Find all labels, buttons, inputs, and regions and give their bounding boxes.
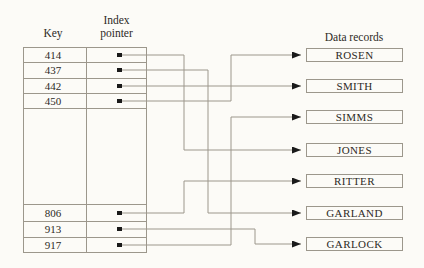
- index-pointer-column-header: Index pointer: [86, 14, 147, 40]
- pointer-marker-icon: [117, 68, 122, 72]
- wire-450-to-ROSEN: [122, 55, 301, 101]
- pointer-marker-icon: [117, 84, 122, 88]
- row-divider: [23, 204, 147, 205]
- pointer-marker-icon: [117, 99, 122, 103]
- key-cell: 450: [23, 94, 83, 108]
- index-file-diagram: Key Index pointer Data records 414 437 4…: [0, 0, 424, 268]
- row-divider: [23, 108, 147, 109]
- pointer-marker-icon: [117, 243, 122, 247]
- record-box: SMITH: [306, 79, 403, 93]
- wire-414-to-JONES: [122, 55, 301, 150]
- wire-437-to-GARLAND: [122, 70, 301, 213]
- key-cell: 913: [23, 222, 83, 236]
- key-cell: 414: [23, 48, 83, 62]
- pointer-marker-icon: [117, 53, 122, 57]
- record-box: GARLAND: [306, 206, 403, 220]
- wire-913-to-GARLOCK: [122, 229, 301, 244]
- key-cell: 917: [23, 238, 83, 252]
- record-box: GARLOCK: [306, 237, 403, 251]
- wire-806-to-RITTER: [122, 181, 301, 213]
- index-pointer-header-line2: pointer: [86, 27, 147, 40]
- record-box: SIMMS: [306, 110, 403, 124]
- data-records-title: Data records: [300, 31, 408, 44]
- record-box: ROSEN: [306, 48, 403, 62]
- record-box: RITTER: [306, 174, 403, 188]
- key-column-header: Key: [23, 27, 83, 40]
- record-box: JONES: [306, 143, 403, 157]
- pointer-marker-icon: [117, 211, 122, 215]
- key-cell: 442: [23, 79, 83, 93]
- wire-917-to-SIMMS: [122, 117, 301, 245]
- key-cell: 437: [23, 63, 83, 77]
- index-pointer-header-line1: Index: [86, 14, 147, 27]
- key-cell: 806: [23, 206, 83, 220]
- pointer-marker-icon: [117, 227, 122, 231]
